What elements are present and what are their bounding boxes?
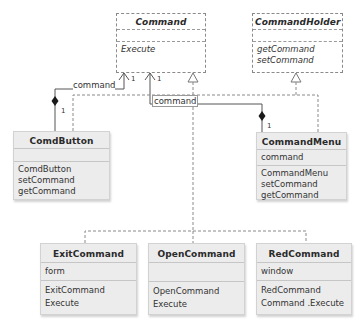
methods-section: CommandMenu setCommand getCommand [257, 165, 346, 203]
method: setCommand [257, 55, 338, 66]
class-title: CommandHolder [253, 14, 342, 29]
method: getCommand [257, 44, 338, 55]
multiplicity-label: 1 [267, 122, 271, 130]
class-redcommand[interactable]: RedCommand window RedCommand Command .Ex… [256, 243, 352, 315]
methods-section: Execute [117, 41, 205, 57]
class-title: ComdButton [14, 132, 109, 148]
methods-section: getCommand setCommand [253, 41, 342, 68]
methods-section: ComdButton setCommand getCommand [14, 161, 109, 199]
method: setCommand [261, 179, 342, 190]
method: CommandMenu [261, 168, 342, 179]
class-commandmenu[interactable]: CommandMenu command CommandMenu setComma… [256, 132, 347, 200]
method: OpenCommand [153, 285, 240, 298]
method: ComdButton [18, 164, 105, 175]
attributes-section [117, 29, 205, 41]
class-command[interactable]: Command Execute [116, 13, 206, 73]
attribute: form [45, 266, 132, 277]
method: setCommand [18, 175, 105, 186]
multiplicity-label: 1 [61, 107, 65, 115]
association-role-label: command [152, 95, 198, 107]
multiplicity-label: 1 [131, 75, 135, 83]
composition-diamond-commandmenu [259, 111, 266, 121]
method: ExitCommand [45, 284, 132, 297]
methods-section: RedCommand Command .Execute [257, 280, 351, 312]
class-title: RedCommand [257, 244, 351, 262]
class-title: Command [117, 14, 205, 29]
attributes-section [253, 29, 342, 41]
method: Execute [121, 44, 201, 55]
attributes-section: form [41, 262, 136, 280]
attributes-section [149, 262, 244, 281]
attributes-section: command [257, 149, 346, 165]
composition-diamond-comdbutton [52, 96, 59, 106]
method: Execute [45, 297, 132, 310]
class-title: ExitCommand [41, 244, 136, 262]
association-role-label: command [73, 80, 115, 90]
method: Command .Execute [261, 297, 347, 310]
attribute: command [261, 152, 342, 163]
method: getCommand [18, 186, 105, 197]
method: RedCommand [261, 284, 347, 297]
class-title: CommandMenu [257, 133, 346, 149]
methods-section: OpenCommand Execute [149, 281, 244, 313]
attributes-section [14, 148, 109, 161]
realization-triangle-commandholder [291, 73, 301, 82]
multiplicity-label: 1 [157, 75, 161, 83]
attribute: window [261, 266, 347, 277]
class-commandholder[interactable]: CommandHolder getCommand setCommand [252, 13, 343, 73]
attributes-section: window [257, 262, 351, 280]
methods-section: ExitCommand Execute [41, 280, 136, 312]
class-opencommand[interactable]: OpenCommand OpenCommand Execute [148, 243, 245, 315]
class-comdbutton[interactable]: ComdButton ComdButton setCommand getComm… [13, 131, 110, 200]
class-exitcommand[interactable]: ExitCommand form ExitCommand Execute [40, 243, 137, 315]
realization-triangle-command [188, 73, 198, 82]
method: Execute [153, 298, 240, 311]
method: getCommand [261, 190, 342, 201]
class-title: OpenCommand [149, 244, 244, 262]
